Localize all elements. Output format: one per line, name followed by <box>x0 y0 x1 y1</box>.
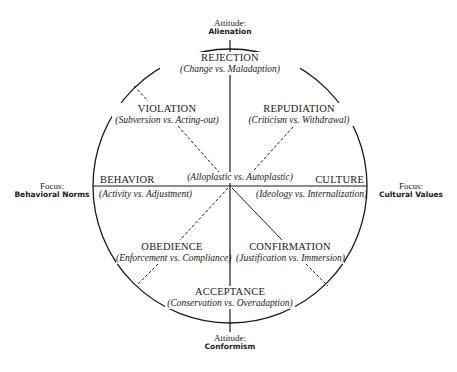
quadrant-violation: VIOLATION (Subversion vs. Acting-out) <box>112 103 222 126</box>
diagonal-lower-left-outer <box>137 264 158 285</box>
typology-diagram: Attitude: Alienation Attitude: Conformis… <box>0 0 457 372</box>
diagonal-upper-left-outer <box>134 86 148 101</box>
axis-label-left: Focus: Behavioral Norms <box>12 181 92 200</box>
center-label: (Alloplastic vs. Autoplastic) <box>180 172 300 183</box>
obedience-title: OBEDIENCE <box>116 241 228 253</box>
axis-label-top: Attitude: Alienation <box>200 18 260 37</box>
behavior-subtitle: (Activity vs. Adjustment) <box>99 189 192 200</box>
axis-label-bottom: Attitude: Conformism <box>200 333 260 352</box>
obedience-subtitle: (Enforcement vs. Compliance) <box>116 253 228 264</box>
confirmation-title: CONFIRMATION <box>236 241 344 253</box>
acceptance-title: ACCEPTANCE <box>165 286 295 298</box>
pole-acceptance: ACCEPTANCE (Conservation vs. Overadaptio… <box>165 286 295 309</box>
axis-label-right: Focus: Cultural Values <box>368 181 454 200</box>
pole-rejection: REJECTION (Change vs. Maladaption) <box>160 52 300 75</box>
quadrant-repudiation: REPUDIATION (Criticism vs. Withdrawal) <box>241 103 357 126</box>
violation-subtitle: (Subversion vs. Acting-out) <box>112 115 222 126</box>
rejection-title: REJECTION <box>160 52 300 64</box>
confirmation-subtitle: (Justification vs. Immersion) <box>236 253 344 264</box>
rejection-subtitle: (Change vs. Maladaption) <box>160 64 300 75</box>
axis-bottom-value: Conformism <box>200 343 260 352</box>
culture-subtitle: (Ideology vs. Internalization) <box>256 189 364 200</box>
axis-right-value: Cultural Values <box>368 191 454 200</box>
behavior-title: BEHAVIOR <box>100 174 155 186</box>
diagonal-lower-right-outer <box>306 264 328 286</box>
repudiation-subtitle: (Criticism vs. Withdrawal) <box>241 115 357 126</box>
axis-top-value: Alienation <box>200 28 260 37</box>
quadrant-obedience: OBEDIENCE (Enforcement vs. Compliance) <box>116 241 228 264</box>
culture-title: CULTURE <box>312 174 364 186</box>
axis-left-value: Behavioral Norms <box>12 191 92 200</box>
acceptance-subtitle: (Conservation vs. Overadaption) <box>165 298 295 309</box>
violation-title: VIOLATION <box>112 103 222 115</box>
repudiation-title: REPUDIATION <box>241 103 357 115</box>
quadrant-confirmation: CONFIRMATION (Justification vs. Immersio… <box>236 241 344 264</box>
